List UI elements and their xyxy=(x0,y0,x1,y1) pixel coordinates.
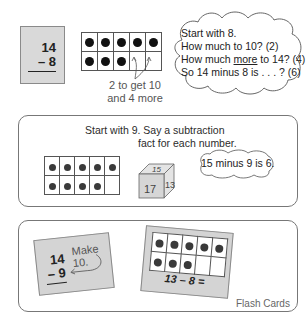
counter-dot xyxy=(133,38,142,47)
counter-dot xyxy=(155,239,164,248)
counter-dot xyxy=(185,242,194,251)
counter-dot xyxy=(149,38,158,47)
counter-dot xyxy=(94,183,101,190)
instruction-text: Start with 9. Say a subtraction fact for… xyxy=(85,124,237,150)
counter-dot xyxy=(183,261,192,270)
ten-frame-flashcard xyxy=(149,232,228,277)
ten-frame-middle xyxy=(44,156,120,195)
flash-card-14-minus-9: 14 – 9 Make 10. xyxy=(33,232,114,296)
svg-text:15: 15 xyxy=(152,165,161,174)
svg-text:13: 13 xyxy=(165,180,175,190)
counter-dot xyxy=(64,183,71,190)
answer-line xyxy=(47,282,67,285)
flash-cards-label: Flash Cards xyxy=(236,298,290,309)
emphasis-more: more xyxy=(234,53,258,65)
counter-dot xyxy=(168,259,177,268)
problem-card-14-minus-8: 14 – 8 xyxy=(20,26,65,84)
counter-dot xyxy=(215,244,224,253)
counter-dot xyxy=(101,38,110,47)
subtrahend-row: – 9 xyxy=(45,266,66,282)
empty-cell xyxy=(194,255,211,275)
curved-arrows-icon xyxy=(120,52,160,82)
vertical-subtraction: 14 – 8 xyxy=(28,41,56,72)
number-cube-icon: 15 17 13 xyxy=(136,160,178,202)
counter-dot xyxy=(85,38,94,47)
counter-dot xyxy=(49,183,56,190)
counter-dot xyxy=(94,164,101,171)
curved-arrow-icon xyxy=(64,252,108,278)
empty-cell xyxy=(209,257,226,277)
counter-dot xyxy=(49,164,56,171)
counter-dot xyxy=(85,57,94,66)
counter-dot xyxy=(154,258,163,267)
counter-dot xyxy=(64,164,71,171)
thought-cloud-text: Start with 8. How much to 10? (2) How mu… xyxy=(181,27,305,79)
svg-text:17: 17 xyxy=(144,183,156,195)
hint-note: 2 to get 10 and 4 more xyxy=(100,79,170,105)
counter-dot xyxy=(109,164,116,171)
flash-card-13-minus-8: 13 – 8 = xyxy=(140,225,233,298)
counter-dot xyxy=(79,164,86,171)
cloud-line-3: How much more to 14? (4) xyxy=(181,53,305,66)
answer-line xyxy=(28,71,56,72)
counter-dot xyxy=(170,241,179,250)
subtrahend-row: – 8 xyxy=(28,55,56,69)
empty-cell xyxy=(105,176,120,195)
counter-dot xyxy=(79,183,86,190)
minuend: 14 xyxy=(28,41,56,55)
counter-dot xyxy=(101,57,110,66)
counter-dot xyxy=(117,38,126,47)
counter-dot xyxy=(200,243,209,252)
subtrahend: 8 xyxy=(49,54,56,69)
speech-cloud-text: 15 minus 9 is 6. xyxy=(201,157,275,170)
flash-card-equation: 13 – 8 = xyxy=(164,272,205,287)
